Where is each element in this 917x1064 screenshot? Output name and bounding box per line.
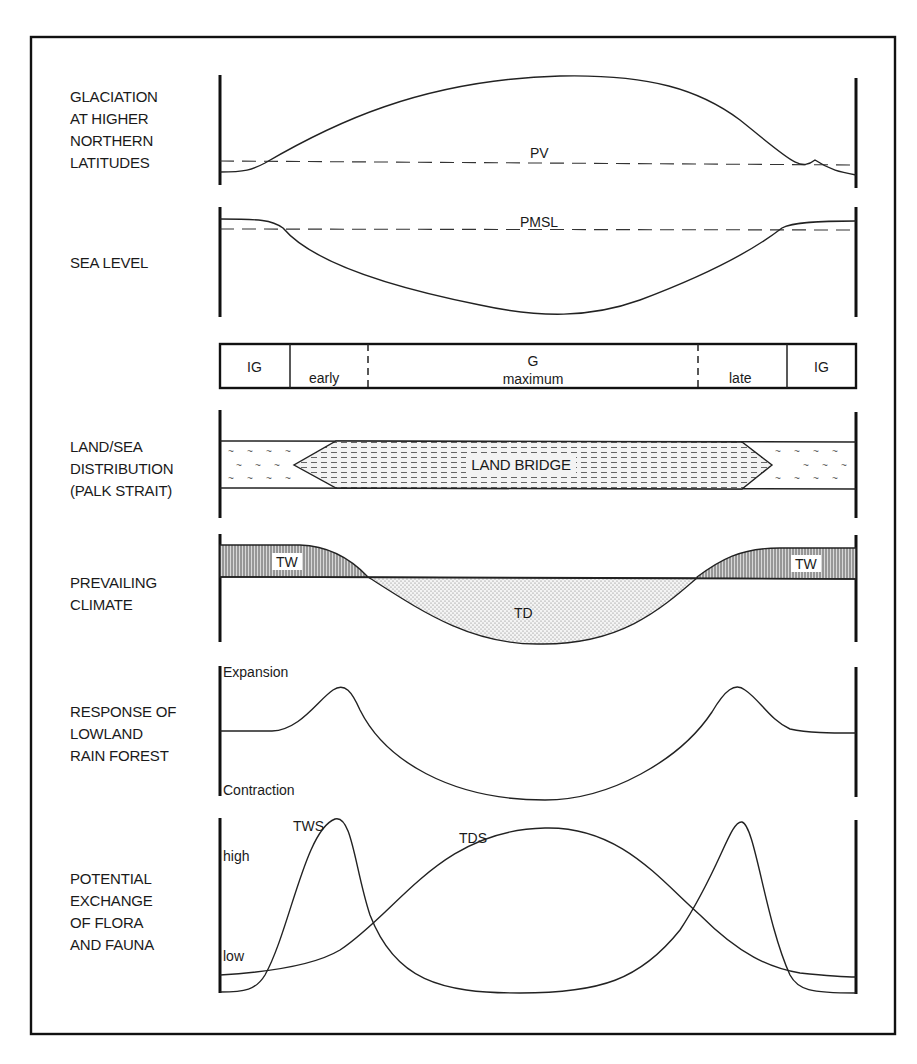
low-label: low xyxy=(223,948,245,964)
glaciation-label: GLACIATION AT HIGHER NORTHERN LATITUDES xyxy=(70,88,162,171)
svg-text:~: ~ xyxy=(775,446,781,457)
phase-ig-left: IG xyxy=(247,359,262,375)
phase-maximum: maximum xyxy=(503,371,564,387)
sea-water-marks-right: ~~~~ ~~~ ~~~~ xyxy=(775,446,847,484)
pv-reference-line xyxy=(220,161,856,165)
tds-curve xyxy=(220,828,856,977)
svg-text:~: ~ xyxy=(794,446,800,457)
rain-forest-label: RESPONSE OF LOWLAND RAIN FOREST xyxy=(70,703,180,764)
svg-text:~: ~ xyxy=(841,460,847,471)
svg-text:~: ~ xyxy=(255,460,261,471)
tw-left-label: TW xyxy=(276,554,299,570)
exchange-label: POTENTIAL EXCHANGE OF FLORA AND FAUNA xyxy=(70,870,157,953)
panel-rain-forest: RESPONSE OF LOWLAND RAIN FOREST Expansio… xyxy=(70,664,856,800)
outer-frame xyxy=(31,37,895,1034)
td-label: TD xyxy=(514,605,533,621)
phase-late: late xyxy=(729,370,752,386)
rain-forest-curve xyxy=(220,687,856,800)
panel-glaciation: GLACIATION AT HIGHER NORTHERN LATITUDES … xyxy=(70,75,856,188)
tws-curve xyxy=(220,819,856,993)
svg-text:~: ~ xyxy=(832,473,838,484)
sea-water-marks-left: ~~~~ ~~~ ~~~~ xyxy=(228,446,291,484)
svg-text:~: ~ xyxy=(803,460,809,471)
svg-text:~: ~ xyxy=(236,460,242,471)
pv-label: PV xyxy=(530,145,549,161)
svg-text:~: ~ xyxy=(247,473,253,484)
svg-text:~: ~ xyxy=(266,446,272,457)
tw-right-area xyxy=(697,548,856,579)
expansion-label: Expansion xyxy=(223,664,288,680)
land-sea-label: LAND/SEA DISTRIBUTION (PALK STRAIT) xyxy=(70,438,177,499)
svg-text:~: ~ xyxy=(794,473,800,484)
panel-sea-level: SEA LEVEL PMSL xyxy=(70,207,856,317)
contraction-label: Contraction xyxy=(223,782,295,798)
phase-bar: IG early G maximum late IG xyxy=(220,344,856,388)
phase-g: G xyxy=(528,353,539,369)
sea-level-curve xyxy=(220,219,856,314)
high-label: high xyxy=(223,848,249,864)
phase-early: early xyxy=(309,370,339,386)
panel-land-sea: LAND/SEA DISTRIBUTION (PALK STRAIT) ~~~~… xyxy=(70,410,856,518)
svg-text:~: ~ xyxy=(813,473,819,484)
svg-text:~: ~ xyxy=(285,473,291,484)
panel-climate: PREVAILING CLIMATE TW TW TD xyxy=(70,534,856,644)
svg-text:~: ~ xyxy=(775,473,781,484)
svg-text:~: ~ xyxy=(822,460,828,471)
sea-level-label: SEA LEVEL xyxy=(70,254,148,271)
svg-text:~: ~ xyxy=(266,473,272,484)
phase-ig-right: IG xyxy=(814,359,829,375)
svg-text:~: ~ xyxy=(832,446,838,457)
svg-text:~: ~ xyxy=(813,446,819,457)
land-bridge-label: LAND BRIDGE xyxy=(471,456,571,473)
pmsl-label: PMSL xyxy=(520,214,558,230)
tds-label: TDS xyxy=(459,830,487,846)
climate-label: PREVAILING CLIMATE xyxy=(70,574,161,613)
diagram-canvas: GLACIATION AT HIGHER NORTHERN LATITUDES … xyxy=(0,0,917,1064)
panel-exchange: POTENTIAL EXCHANGE OF FLORA AND FAUNA hi… xyxy=(70,818,856,994)
tws-label: TWS xyxy=(293,818,324,834)
svg-text:~: ~ xyxy=(285,446,291,457)
tw-right-label: TW xyxy=(795,556,818,572)
svg-text:~: ~ xyxy=(274,460,280,471)
svg-text:~: ~ xyxy=(247,446,253,457)
svg-text:~: ~ xyxy=(228,446,234,457)
svg-text:~: ~ xyxy=(228,473,234,484)
